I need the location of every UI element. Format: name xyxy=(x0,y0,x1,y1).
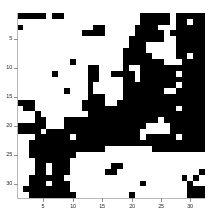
x-axis-line xyxy=(17,198,205,199)
y-tick-mark xyxy=(14,39,18,40)
y-tick-label: 25 xyxy=(0,152,12,158)
y-tick-label: 10 xyxy=(0,65,12,71)
y-tick-mark xyxy=(14,184,18,185)
y-tick-label: 15 xyxy=(0,94,12,100)
y-tick-label: 5 xyxy=(0,36,12,42)
matrix-figure: 51015202530 51015202530 xyxy=(0,0,217,219)
binary-matrix-heatmap xyxy=(17,13,205,198)
x-tick-mark xyxy=(190,198,191,202)
x-tick-mark xyxy=(102,198,103,202)
y-tick-mark xyxy=(14,97,18,98)
x-tick-label: 25 xyxy=(154,204,168,210)
x-tick-mark xyxy=(43,198,44,202)
x-tick-mark xyxy=(73,198,74,202)
x-tick-label: 15 xyxy=(95,204,109,210)
y-tick-label: 30 xyxy=(0,181,12,187)
y-tick-mark xyxy=(14,68,18,69)
y-tick-label: 20 xyxy=(0,123,12,129)
x-tick-mark xyxy=(161,198,162,202)
x-tick-label: 20 xyxy=(125,204,139,210)
y-tick-mark xyxy=(14,126,18,127)
x-tick-mark xyxy=(132,198,133,202)
heatmap-plot-area xyxy=(17,13,205,198)
x-tick-label: 30 xyxy=(183,204,197,210)
y-tick-mark xyxy=(14,155,18,156)
x-tick-label: 10 xyxy=(66,204,80,210)
x-tick-label: 5 xyxy=(36,204,50,210)
y-axis-line xyxy=(17,13,18,198)
